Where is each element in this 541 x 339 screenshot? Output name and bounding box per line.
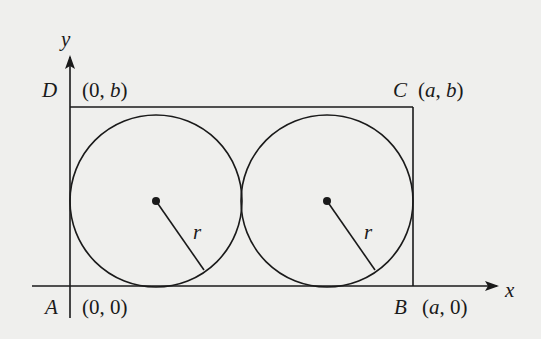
diagram-canvas: [0, 0, 541, 339]
left-radius-label: r: [193, 222, 201, 243]
coord-var: a: [425, 78, 436, 102]
y-axis-label: y: [61, 29, 70, 50]
right-radius-label: r: [364, 222, 372, 243]
coord-var: b: [446, 78, 457, 102]
paren: (: [82, 295, 89, 319]
point-b-coordinates: (a, 0): [422, 297, 468, 318]
coord-text: ,: [436, 78, 447, 102]
coord-text: 0, 0: [89, 295, 121, 319]
paren: ): [121, 78, 128, 102]
x-axis-label: x: [505, 280, 514, 301]
paren: (: [82, 78, 89, 102]
coord-text: , 0: [440, 295, 461, 319]
paren: (: [422, 295, 429, 319]
point-a-name: A: [45, 297, 58, 318]
coord-var: a: [429, 295, 440, 319]
point-c-coordinates: (a, b): [418, 80, 464, 101]
paren: ): [461, 295, 468, 319]
point-d-name: D: [42, 80, 57, 101]
paren: ): [121, 295, 128, 319]
rectangle-two-circles-diagram: y x D (0, b) C (a, b) A (0, 0) B (a, 0) …: [0, 0, 541, 339]
point-b-name: B: [394, 297, 407, 318]
paren: ): [457, 78, 464, 102]
coord-var: b: [110, 78, 121, 102]
point-c-name: C: [393, 80, 407, 101]
paren: (: [418, 78, 425, 102]
coord-text: 0,: [89, 78, 110, 102]
point-d-coordinates: (0, b): [82, 80, 128, 101]
point-a-coordinates: (0, 0): [82, 297, 128, 318]
